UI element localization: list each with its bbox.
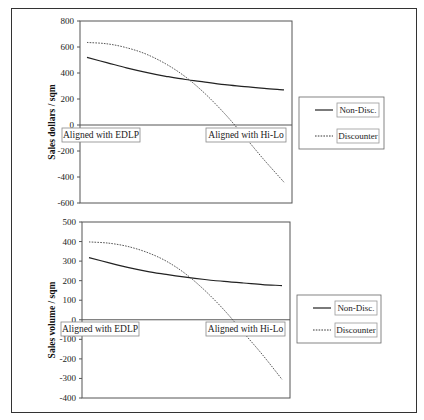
y-tick-label: 500 — [63, 217, 77, 227]
y-tick-label: -600 — [58, 198, 75, 208]
y-tick-label: -200 — [58, 146, 75, 156]
series-non-disc — [89, 258, 282, 286]
svg-text:Non-Disc.: Non-Disc. — [339, 105, 376, 115]
y-tick-label: -400 — [58, 172, 75, 182]
y-tick-label: -200 — [60, 354, 77, 364]
svg-text:Aligned with Hi-Lo: Aligned with Hi-Lo — [208, 324, 284, 334]
label-edlp: Aligned with EDLP — [62, 128, 140, 142]
y-tick-label: 600 — [61, 42, 75, 52]
y-axis-label: Sales dollars / sqm — [47, 84, 57, 159]
y-tick-label: 400 — [63, 237, 77, 247]
y-tick-label: 400 — [61, 68, 75, 78]
y-tick-label: -400 — [60, 393, 77, 403]
svg-text:Non-Disc.: Non-Disc. — [337, 303, 374, 313]
y-axis-label: Sales volume / sqm — [47, 282, 57, 359]
y-tick-label: 200 — [61, 94, 75, 104]
plot-area — [80, 21, 292, 203]
svg-text:Aligned with Hi-Lo: Aligned with Hi-Lo — [208, 130, 284, 140]
plot-area — [82, 222, 290, 398]
y-tick-label: 300 — [63, 256, 77, 266]
series-non-disc — [87, 57, 284, 90]
svg-text:Aligned with EDLP: Aligned with EDLP — [63, 130, 139, 140]
label-hilo: Aligned with Hi-Lo — [206, 128, 286, 142]
series-discounter — [89, 242, 282, 379]
legend: Non-Disc.Discounter — [299, 97, 384, 149]
label-hilo: Aligned with Hi-Lo — [206, 322, 285, 336]
chart-1: 8006004002000-200-400-600Sales dollars /… — [47, 16, 384, 208]
svg-text:Discounter: Discounter — [338, 131, 378, 141]
svg-text:Discounter: Discounter — [336, 325, 376, 335]
series-discounter — [87, 42, 284, 182]
y-tick-label: 200 — [63, 276, 77, 286]
svg-text:Aligned with EDLP: Aligned with EDLP — [62, 324, 138, 334]
chart-canvas: 8006004002000-200-400-600Sales dollars /… — [0, 0, 424, 420]
legend: Non-Disc.Discounter — [297, 295, 381, 343]
y-tick-label: 100 — [63, 295, 77, 305]
y-tick-label: -300 — [60, 373, 77, 383]
chart-2: 5004003002001000-100-200-300-400Sales vo… — [47, 217, 381, 403]
y-tick-label: 800 — [61, 16, 75, 26]
label-edlp: Aligned with EDLP — [61, 322, 139, 336]
